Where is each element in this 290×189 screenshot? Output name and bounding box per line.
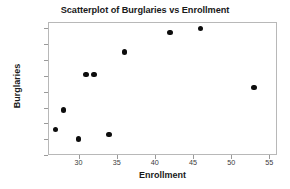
plot-area — [48, 22, 277, 155]
x-axis-title: Enrollment — [48, 170, 277, 180]
x-tick-mark — [79, 155, 80, 159]
x-tick-mark — [269, 155, 270, 159]
x-tick-label: 35 — [113, 158, 121, 167]
x-tick-mark — [231, 155, 232, 159]
data-point — [198, 26, 203, 31]
data-point — [61, 107, 66, 112]
data-point — [53, 127, 58, 132]
x-tick-mark — [155, 155, 156, 159]
y-tick-mark — [44, 155, 48, 156]
x-tick-label: 55 — [265, 158, 273, 167]
x-tick-mark — [193, 155, 194, 159]
x-tick-label: 50 — [227, 158, 235, 167]
x-tick-label: 30 — [75, 158, 83, 167]
data-point — [83, 72, 88, 77]
y-axis-title: Burglaries — [12, 36, 22, 136]
x-tick-label: 40 — [151, 158, 159, 167]
data-point — [76, 136, 81, 141]
data-point — [251, 85, 256, 90]
chart-title: Scatterplot of Burglaries vs Enrollment — [0, 5, 290, 15]
data-point — [122, 49, 127, 54]
data-point — [106, 132, 111, 137]
x-tick-mark — [117, 155, 118, 159]
scatterplot-chart: Scatterplot of Burglaries vs Enrollment … — [0, 0, 290, 189]
data-point — [167, 30, 172, 35]
data-point — [91, 72, 96, 77]
x-tick-label: 45 — [189, 158, 197, 167]
